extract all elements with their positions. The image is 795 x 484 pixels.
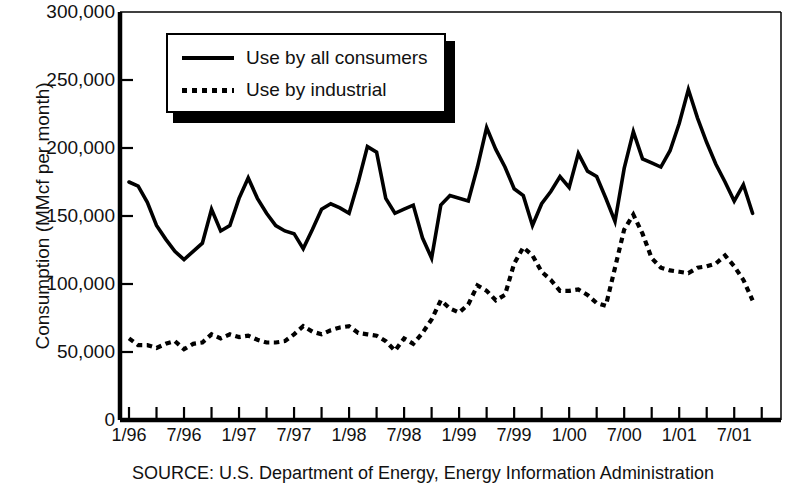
legend-dotted-line-icon [182, 83, 234, 97]
x-axis-tick-labels: 1/967/961/977/971/987/981/997/991/007/00… [0, 424, 795, 450]
legend-entry-all-consumers: Use by all consumers [182, 43, 428, 73]
legend-label-industrial: Use by industrial [246, 79, 386, 101]
chart-figure: Consumption (MMcf per month) 300,000250,… [0, 0, 795, 484]
x-tick-label: 7/01 [699, 424, 769, 446]
chart-legend: Use by all consumers Use by industrial [166, 33, 446, 113]
legend-entry-industrial: Use by industrial [182, 75, 386, 105]
legend-solid-line-icon [182, 51, 234, 65]
data-series [129, 90, 753, 351]
series-line-industrial [129, 215, 753, 351]
source-note: SOURCE: U.S. Department of Energy, Energ… [132, 462, 714, 484]
legend-label-all-consumers: Use by all consumers [246, 47, 428, 69]
